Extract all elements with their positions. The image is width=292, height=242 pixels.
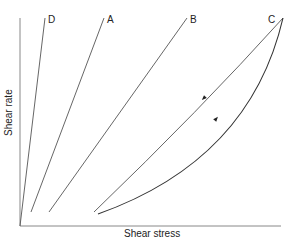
curve-d [20,18,45,226]
curve-c-down [94,18,283,212]
label-b: B [190,15,197,25]
label-c: C [268,15,275,25]
arrow-up-icon [213,115,219,121]
label-a: A [107,15,114,25]
y-axis-label: Shear rate [3,89,14,136]
label-d: D [48,15,55,25]
rheology-diagram [0,0,292,242]
x-axis-label: Shear stress [124,229,180,239]
curve-b [49,18,187,212]
